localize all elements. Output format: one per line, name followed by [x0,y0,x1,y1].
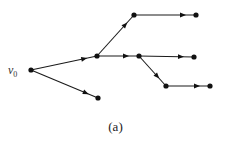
node-n2 [131,12,136,17]
arrowhead-icon [82,90,88,95]
arrowhead-icon [180,13,186,18]
root-label: v0 [8,63,17,79]
node-n8 [95,95,100,100]
arrowhead-icon [178,54,184,59]
edge-n1-n2 [97,15,134,56]
arrowhead-icon [194,84,200,89]
node-n1 [94,53,99,58]
arrowhead-icon [123,54,129,59]
node-n5 [191,54,196,59]
edge-n4-n6 [139,56,166,86]
node-n6 [163,83,168,88]
arrowhead-icon [81,57,87,62]
node-n7 [207,83,212,88]
edge-n4-n5 [139,56,194,57]
node-n3 [193,12,198,17]
node-v0 [28,67,33,72]
node-n4 [136,53,141,58]
figure-caption: (a) [0,119,231,135]
